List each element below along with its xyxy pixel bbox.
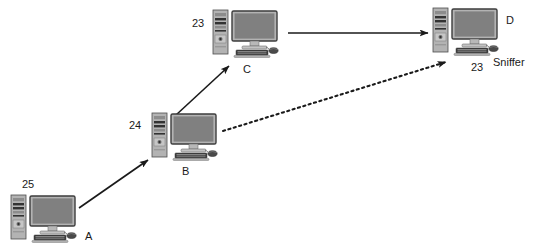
monitor-icon xyxy=(171,114,216,152)
tower-icon xyxy=(11,195,26,239)
network-diagram: 25A 24B xyxy=(0,0,534,250)
computer-d[interactable] xyxy=(432,7,502,59)
tower-icon xyxy=(152,113,167,157)
monitor-icon xyxy=(452,9,497,47)
node-b-id-label: B xyxy=(182,166,189,177)
computer-a[interactable] xyxy=(10,194,80,246)
tower-icon xyxy=(213,10,228,54)
tower-icon xyxy=(433,8,448,52)
node-d-id-label: D xyxy=(506,15,514,26)
node-d-note-label: Sniffer xyxy=(493,57,525,68)
node-c-number-label: 23 xyxy=(192,18,204,29)
computer-c[interactable] xyxy=(212,9,282,61)
node-a-id-label: A xyxy=(85,231,92,242)
monitor-icon xyxy=(232,11,277,49)
keyboard-icon xyxy=(454,48,490,55)
keyboard-icon xyxy=(32,235,68,242)
node-d-number-label: 23 xyxy=(471,62,483,73)
node-b-number-label: 24 xyxy=(129,120,141,131)
edge-a-to-b xyxy=(79,160,148,208)
node-a-number-label: 25 xyxy=(22,179,34,190)
monitor-icon xyxy=(30,196,75,234)
keyboard-icon xyxy=(173,153,209,160)
computer-b[interactable] xyxy=(151,112,221,164)
keyboard-icon xyxy=(234,50,270,57)
edge-b-to-c xyxy=(176,66,229,115)
edge-b-to-d-sniffed xyxy=(223,62,446,131)
node-c-id-label: C xyxy=(243,64,251,75)
